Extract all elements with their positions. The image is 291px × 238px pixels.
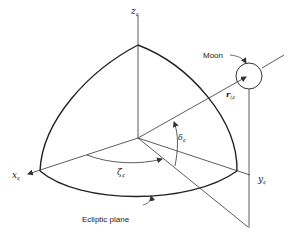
sphere-octant — [40, 45, 237, 197]
ecliptic-arc — [40, 171, 237, 197]
ecliptic-plane-label: Ecliptic plane — [82, 215, 130, 224]
r-vector-label: r(¢ — [226, 89, 235, 100]
zeta-arc — [87, 155, 162, 163]
projection-line — [138, 138, 248, 227]
y-axis-label: y¢ — [257, 174, 266, 185]
moon-geometry — [138, 55, 284, 228]
meridian-xz — [40, 45, 138, 171]
meridian-yz — [138, 45, 237, 171]
leaders — [143, 55, 246, 205]
octant-diagram: z¢ x¢ y¢ Moon r(¢ ζ¢ δ¢ Ecliptic plane — [0, 0, 291, 238]
moon-leader — [230, 55, 246, 63]
position-vector — [138, 77, 246, 138]
zeta-label: ζ¢ — [117, 167, 125, 178]
moon-label: Moon — [203, 51, 223, 60]
x-axis-label: x¢ — [12, 170, 20, 181]
z-axis-label: z¢ — [130, 6, 139, 17]
moon-circle — [236, 63, 262, 89]
delta-arc — [174, 122, 178, 166]
ecliptic-leader — [143, 196, 151, 205]
vector-extension — [262, 55, 284, 68]
delta-label: δ¢ — [178, 133, 186, 143]
axes — [28, 15, 250, 175]
